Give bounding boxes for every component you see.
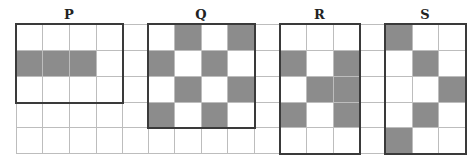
grid-cell <box>122 24 149 51</box>
grid-cell <box>254 127 281 154</box>
grid-cell <box>174 127 202 154</box>
grid-cell <box>16 127 43 154</box>
grid-cell <box>227 127 255 154</box>
grid-cell <box>438 102 466 128</box>
grid-cell <box>280 24 307 51</box>
shaded-cell <box>201 50 228 77</box>
grid-cell <box>254 24 281 51</box>
shaded-cell <box>385 127 413 154</box>
grid-cell <box>122 102 149 128</box>
grid-cell <box>96 50 123 77</box>
grid-cell <box>201 127 228 154</box>
shaded-cell <box>42 50 70 77</box>
grid-cell <box>438 24 466 51</box>
figure-label-q: Q <box>181 7 221 22</box>
grid-cell <box>359 50 386 77</box>
grid-cell <box>385 76 413 103</box>
grid-cell <box>122 50 149 77</box>
grid-cell <box>254 50 281 77</box>
shaded-cell <box>201 102 228 128</box>
grid-cell <box>69 24 97 51</box>
grid-cell <box>16 24 43 51</box>
grid-cell <box>174 50 202 77</box>
grid-cell <box>438 50 466 77</box>
grid-cell <box>227 50 255 77</box>
shaded-cell <box>438 76 466 103</box>
grid-cell <box>280 127 307 154</box>
grid-cell <box>96 24 123 51</box>
figure-label-s: S <box>405 7 445 22</box>
shaded-cell <box>148 102 175 128</box>
grid-cell <box>16 102 43 128</box>
grid-cell <box>333 24 360 51</box>
grid-cell <box>42 127 70 154</box>
figure-label-r: R <box>300 7 340 22</box>
figure-label-p: P <box>49 7 89 22</box>
shaded-cell <box>148 50 175 77</box>
shaded-cell <box>412 50 439 77</box>
grid-cell <box>306 102 334 128</box>
grid-cell <box>122 127 149 154</box>
grid-cell <box>359 76 386 103</box>
grid-cell <box>359 102 386 128</box>
grid-cell <box>385 102 413 128</box>
grid-cell <box>254 102 281 128</box>
grid-cell <box>96 76 123 103</box>
grid-cell <box>42 76 70 103</box>
grid-cell <box>438 127 466 154</box>
grid-cell <box>306 127 334 154</box>
shaded-cell <box>333 76 360 103</box>
shaded-cell <box>174 76 202 103</box>
shaded-cell <box>280 50 307 77</box>
grid-cell <box>69 102 97 128</box>
grid-cell <box>148 24 175 51</box>
grid-cell <box>174 102 202 128</box>
grid-cell <box>201 24 228 51</box>
grid-cell <box>227 102 255 128</box>
shaded-cell <box>333 50 360 77</box>
shaded-cell <box>16 50 43 77</box>
grid-cell <box>96 127 123 154</box>
grid-diagram: PQRS <box>0 0 474 162</box>
grid-cell <box>69 76 97 103</box>
shaded-cell <box>227 76 255 103</box>
grid-cell <box>69 127 97 154</box>
shaded-cell <box>69 50 97 77</box>
grid-cell <box>122 76 149 103</box>
grid-cell <box>359 24 386 51</box>
shaded-cell <box>280 102 307 128</box>
grid-cell <box>359 127 386 154</box>
shaded-cell <box>174 24 202 51</box>
grid-cell <box>306 50 334 77</box>
shaded-cell <box>333 102 360 128</box>
shaded-cell <box>385 24 413 51</box>
grid-cell <box>96 102 123 128</box>
grid-cell <box>201 76 228 103</box>
grid-cell <box>412 127 439 154</box>
grid-cell <box>148 127 175 154</box>
grid-cell <box>412 76 439 103</box>
grid-cell <box>16 76 43 103</box>
shaded-cell <box>306 76 334 103</box>
grid-cell <box>42 24 70 51</box>
grid-cell <box>385 50 413 77</box>
grid-cell <box>306 24 334 51</box>
shaded-cell <box>227 24 255 51</box>
grid-cell <box>42 102 70 128</box>
grid-cell <box>333 127 360 154</box>
shaded-cell <box>412 102 439 128</box>
grid-cell <box>412 24 439 51</box>
grid-cell <box>254 76 281 103</box>
grid-cell <box>148 76 175 103</box>
grid-cell <box>280 76 307 103</box>
